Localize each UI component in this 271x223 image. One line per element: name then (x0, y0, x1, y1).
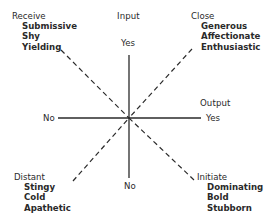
trait-item: Cold (14, 192, 71, 202)
trait-item: Affectionate (191, 31, 260, 41)
quadrant-initiate: Initiate Dominating Bold Stubborn (197, 172, 263, 213)
trait-item: Dominating (197, 182, 263, 192)
output-axis-label: Output (200, 98, 230, 108)
input-axis-label: Input (117, 11, 140, 21)
trait-item: Submissive (12, 21, 77, 31)
quadrant-distant: Distant Stingy Cold Apathetic (14, 172, 71, 213)
input-no-label: No (124, 181, 136, 191)
trait-item: Stubborn (197, 203, 263, 213)
output-yes-label: Yes (206, 113, 220, 123)
quadrant-receive: Receive Submissive Shy Yielding (12, 11, 77, 52)
quadrant-title: Receive (12, 11, 77, 21)
quadrant-title: Close (191, 11, 260, 21)
quadrant-close: Close Generous Affectionate Enthusiastic (191, 11, 260, 52)
diagonal-close-line (129, 49, 192, 118)
trait-item: Bold (197, 192, 263, 202)
quadrant-title: Distant (14, 172, 71, 182)
trait-item: Apathetic (14, 203, 71, 213)
diagonal-receive-line (61, 50, 129, 118)
diagonal-distant-line (73, 118, 129, 181)
input-yes-label: Yes (121, 38, 135, 48)
diagonal-initiate-line (129, 118, 194, 180)
trait-item: Yielding (12, 42, 77, 52)
trait-item: Stingy (14, 182, 71, 192)
input-output-diagram: Input Yes No Output Yes No Receive Submi… (0, 0, 271, 223)
quadrant-title: Initiate (197, 172, 263, 182)
trait-item: Enthusiastic (191, 42, 260, 52)
trait-item: Shy (12, 31, 77, 41)
output-no-label: No (43, 113, 55, 123)
trait-item: Generous (191, 21, 260, 31)
